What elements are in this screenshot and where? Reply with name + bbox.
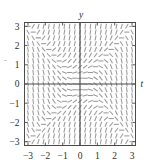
slope-segment xyxy=(59,24,60,29)
y-tick-label: 1 xyxy=(15,60,20,70)
slope-segment xyxy=(85,139,86,144)
y-tick-label: −3 xyxy=(9,137,19,147)
slope-segment xyxy=(132,87,133,92)
slope-segment xyxy=(85,24,86,29)
slope-segment xyxy=(126,76,127,81)
slope-segment xyxy=(90,30,91,35)
slope-segment xyxy=(126,87,127,92)
slope-segment xyxy=(74,133,75,138)
slope-segment xyxy=(132,99,133,104)
slope-segment xyxy=(33,70,34,75)
slope-segment xyxy=(75,139,76,144)
slope-segment xyxy=(90,133,91,138)
slope-segment xyxy=(132,93,133,98)
direction-field-figure: −3−2−10123 3210−1−2−3 t y xyxy=(0,0,155,167)
slope-segment xyxy=(33,93,34,98)
slope-segment xyxy=(28,99,29,104)
slope-segment xyxy=(28,76,29,81)
slope-segment xyxy=(28,64,29,69)
slope-segment xyxy=(126,93,127,98)
slope-segment xyxy=(85,133,86,138)
y-tick-label: 3 xyxy=(15,22,20,32)
slope-segment xyxy=(95,24,96,29)
slope-segment xyxy=(28,87,29,92)
slope-segment xyxy=(28,93,29,98)
slope-segment xyxy=(33,87,34,92)
y-tick-label: 0 xyxy=(15,79,20,89)
slope-segment xyxy=(100,139,101,144)
slope-segment xyxy=(85,30,86,35)
slope-segment xyxy=(28,58,29,63)
slope-segment xyxy=(64,24,65,29)
x-tick-label: 0 xyxy=(78,151,83,161)
slope-segment xyxy=(28,104,29,109)
slope-segment xyxy=(69,24,70,29)
slope-segment xyxy=(28,70,29,75)
y-axis-label: y xyxy=(78,10,84,20)
slope-segment xyxy=(126,70,127,75)
x-tick-label: 1 xyxy=(95,151,100,161)
slope-segment xyxy=(90,139,91,144)
slope-segment xyxy=(132,76,133,81)
y-tick-label: −2 xyxy=(9,118,19,128)
x-tick-label: −2 xyxy=(40,151,50,161)
slope-segment xyxy=(100,24,101,29)
slope-segment xyxy=(132,58,133,63)
slope-segment xyxy=(33,76,34,81)
slope-segment xyxy=(75,24,76,29)
slope-segment xyxy=(132,104,133,109)
y-tick-label: −1 xyxy=(9,99,19,109)
slope-segment xyxy=(90,24,91,29)
slope-segment xyxy=(69,139,70,144)
slope-segment xyxy=(59,139,60,144)
x-tick-label: −3 xyxy=(23,151,33,161)
slope-segment xyxy=(132,70,133,75)
x-tick-label: −1 xyxy=(58,151,68,161)
slope-segment xyxy=(132,64,133,69)
slope-segment xyxy=(69,30,70,35)
x-tick-label: 3 xyxy=(130,151,135,161)
stray-speck xyxy=(4,60,7,61)
slope-segment xyxy=(74,30,75,35)
direction-field-svg: −3−2−10123 3210−1−2−3 t y xyxy=(0,0,155,167)
x-tick-label: 2 xyxy=(112,151,117,161)
slope-segment xyxy=(64,139,65,144)
slope-segment xyxy=(69,133,70,138)
t-axis-label: t xyxy=(141,79,144,89)
y-tick-label: 2 xyxy=(15,41,20,51)
slope-segment xyxy=(95,139,96,144)
